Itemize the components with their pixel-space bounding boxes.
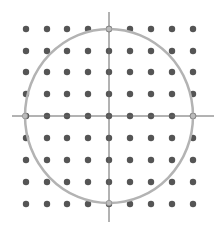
lattice-dot — [127, 48, 133, 54]
lattice-dot — [127, 91, 133, 97]
lattice-dot — [190, 69, 196, 75]
lattice-dot — [23, 157, 29, 163]
lattice-dot — [64, 179, 70, 185]
lattice-dot — [190, 48, 196, 54]
lattice-dot — [64, 26, 70, 32]
lattice-dot — [169, 69, 175, 75]
lattice-dot — [85, 135, 91, 141]
lattice-dot — [85, 91, 91, 97]
lattice-dot — [190, 26, 196, 32]
lattice-dot — [169, 157, 175, 163]
lattice-dot — [85, 179, 91, 185]
lattice-dot — [148, 91, 154, 97]
lattice-dot — [64, 69, 70, 75]
lattice-dot — [169, 135, 175, 141]
lattice-dot — [148, 135, 154, 141]
lattice-dot — [64, 91, 70, 97]
lattice-dot — [64, 135, 70, 141]
lattice-dot — [64, 201, 70, 207]
lattice-dot — [23, 69, 29, 75]
lattice-dot — [127, 179, 133, 185]
lattice-dot — [127, 69, 133, 75]
axis-circle-intersection — [106, 200, 112, 206]
lattice-dot — [148, 69, 154, 75]
lattice-dot — [44, 157, 50, 163]
lattice-dot — [169, 201, 175, 207]
lattice-dot — [64, 48, 70, 54]
axis-circle-intersection — [22, 113, 28, 119]
lattice-dot — [190, 157, 196, 163]
lattice-dot — [85, 157, 91, 163]
lattice-dot — [127, 135, 133, 141]
lattice-dot — [44, 179, 50, 185]
axis-circle-intersection — [106, 26, 112, 32]
lattice-dot — [190, 179, 196, 185]
lattice-dot — [148, 157, 154, 163]
lattice-dot — [23, 26, 29, 32]
lattice-dot — [169, 91, 175, 97]
lattice-dot — [44, 135, 50, 141]
lattice-dot — [23, 179, 29, 185]
axis-circle-intersection — [190, 113, 196, 119]
lattice-dot — [190, 201, 196, 207]
lattice-dot — [44, 91, 50, 97]
lattice-dot — [148, 48, 154, 54]
lattice-dot — [44, 69, 50, 75]
lattice-dot — [169, 26, 175, 32]
lattice-dot — [169, 48, 175, 54]
lattice-dot — [148, 26, 154, 32]
lattice-dot — [169, 179, 175, 185]
lattice-dot — [85, 48, 91, 54]
lattice-dot — [127, 157, 133, 163]
lattice-dot — [44, 201, 50, 207]
lattice-circle-diagram — [0, 0, 222, 231]
lattice-dot — [148, 201, 154, 207]
lattice-dot — [23, 48, 29, 54]
lattice-dot — [44, 26, 50, 32]
lattice-dot — [148, 179, 154, 185]
lattice-dot — [23, 201, 29, 207]
lattice-dot — [64, 157, 70, 163]
lattice-dot — [85, 69, 91, 75]
